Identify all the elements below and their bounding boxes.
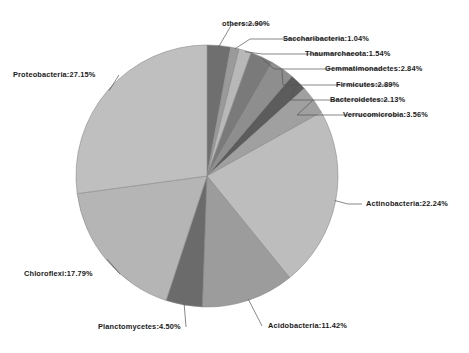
leader-line-acidobacteria	[248, 299, 262, 326]
pie-slice-proteobacteria	[76, 45, 207, 194]
leader-line-actinobacteria	[335, 201, 362, 204]
label-thaumarchaeota: Thaumarchaeota:1.54%	[305, 50, 391, 57]
label-bacteroidetes: Bacteroidetes:2.13%	[330, 96, 405, 103]
label-planctomycetes: Planctomycetes:4.50%	[98, 323, 181, 330]
pie-chart	[0, 0, 469, 353]
pie-slices	[76, 45, 338, 307]
label-gemmatimonadetes: Gemmatimonadetes:2.84%	[325, 65, 422, 72]
label-others: others:2.90%	[222, 20, 270, 27]
chart-page: others:2.90% Saccharibacteria:1.04% Thau…	[0, 0, 469, 353]
label-saccharibacteria: Saccharibacteria:1.04%	[283, 35, 369, 42]
label-acidobacteria: Acidobacteria:11.42%	[268, 322, 347, 329]
label-firmicutes: Firmicutes:2.89%	[336, 81, 399, 88]
leader-line-planctomycetes	[184, 304, 186, 327]
label-actinobacteria: Actinobacteria:22.24%	[366, 200, 448, 207]
label-chloroflexi: Chloroflexi:17.79%	[24, 270, 93, 277]
label-proteobacteria: Proteobacteria:27.15%	[13, 71, 95, 78]
label-verrucomicrobia: Verrucomicrobia:3.56%	[343, 111, 428, 118]
